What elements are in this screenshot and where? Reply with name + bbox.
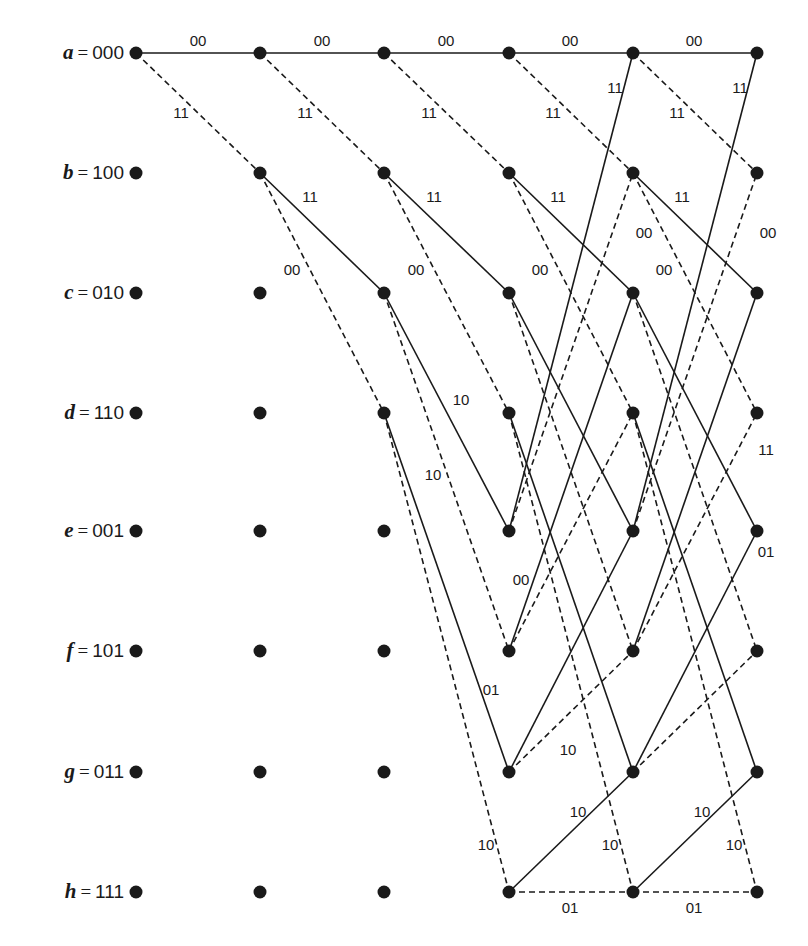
transition-f-d-dashed bbox=[633, 413, 757, 651]
equals-sign: = bbox=[78, 42, 89, 63]
state-var: e bbox=[64, 518, 73, 542]
state-node-e-t5 bbox=[751, 525, 764, 538]
state-node-b-t0 bbox=[130, 167, 143, 180]
state-node-h-t4 bbox=[627, 886, 640, 899]
state-node-d-t2 bbox=[378, 407, 391, 420]
state-node-a-t3 bbox=[503, 47, 516, 60]
state-node-g-t4 bbox=[627, 766, 640, 779]
state-label-f: f=101 bbox=[0, 640, 124, 661]
edge-output-labels: 0000000000111111111111111111111100000000… bbox=[173, 32, 776, 916]
state-node-a-t0 bbox=[130, 47, 143, 60]
transition-f-d-dashed bbox=[509, 413, 633, 651]
edge-output-label: 00 bbox=[438, 32, 455, 49]
edge-output-label: 10 bbox=[570, 803, 587, 820]
state-node-g-t5 bbox=[751, 766, 764, 779]
transition-b-d-dashed bbox=[260, 173, 384, 413]
state-var: d bbox=[64, 400, 75, 424]
state-label-b: b=100 bbox=[0, 162, 124, 183]
state-bits: 010 bbox=[92, 282, 124, 303]
state-node-c-t5 bbox=[751, 287, 764, 300]
equals-sign: = bbox=[78, 282, 89, 303]
state-node-f-t3 bbox=[503, 645, 516, 658]
state-node-b-t2 bbox=[378, 167, 391, 180]
state-label-a: a=000 bbox=[0, 42, 124, 63]
edge-output-label: 11 bbox=[426, 188, 442, 205]
state-bits: 011 bbox=[94, 761, 124, 782]
trellis-edges bbox=[136, 53, 757, 892]
edge-output-label: 01 bbox=[483, 681, 500, 698]
state-node-a-t2 bbox=[378, 47, 391, 60]
state-node-c-t3 bbox=[503, 287, 516, 300]
state-bits: 001 bbox=[92, 520, 124, 541]
edge-output-label: 10 bbox=[425, 466, 442, 483]
edge-output-label: 01 bbox=[758, 543, 775, 560]
transition-h-g-solid bbox=[509, 772, 633, 892]
state-node-b-t1 bbox=[254, 167, 267, 180]
transition-g-e-solid bbox=[509, 531, 633, 772]
edge-output-label: 00 bbox=[760, 224, 777, 241]
edge-output-label: 00 bbox=[190, 32, 207, 49]
state-node-g-t2 bbox=[378, 766, 391, 779]
state-node-a-t1 bbox=[254, 47, 267, 60]
edge-output-label: 11 bbox=[545, 104, 561, 121]
state-node-f-t0 bbox=[130, 645, 143, 658]
state-var: g bbox=[64, 759, 75, 783]
edge-output-label: 00 bbox=[513, 571, 530, 588]
state-label-c: c=010 bbox=[0, 282, 124, 303]
transition-b-c-solid bbox=[260, 173, 384, 293]
state-label-h: h=111 bbox=[0, 881, 124, 902]
transition-b-c-solid bbox=[509, 173, 633, 293]
edge-output-label: 11 bbox=[173, 104, 189, 121]
state-node-h-t1 bbox=[254, 886, 267, 899]
state-node-c-t2 bbox=[378, 287, 391, 300]
edge-output-label: 10 bbox=[478, 836, 495, 853]
edge-output-label: 11 bbox=[669, 104, 685, 121]
state-var: f bbox=[67, 638, 74, 662]
edge-output-label: 11 bbox=[550, 188, 566, 205]
state-node-e-t0 bbox=[130, 525, 143, 538]
edge-output-label: 10 bbox=[602, 836, 619, 853]
state-node-d-t4 bbox=[627, 407, 640, 420]
state-node-a-t5 bbox=[751, 47, 764, 60]
state-bits: 000 bbox=[92, 42, 124, 63]
equals-sign: = bbox=[78, 640, 89, 661]
transition-c-e-solid bbox=[384, 293, 509, 531]
state-node-c-t0 bbox=[130, 287, 143, 300]
trellis-diagram: 0000000000111111111111111111111100000000… bbox=[0, 0, 808, 946]
state-node-h-t0 bbox=[130, 886, 143, 899]
edge-output-label: 11 bbox=[758, 441, 774, 458]
state-node-c-t1 bbox=[254, 287, 267, 300]
edge-output-label: 00 bbox=[686, 32, 703, 49]
transition-c-f-dashed bbox=[384, 293, 509, 651]
state-label-e: e=001 bbox=[0, 520, 124, 541]
transition-a-b-dashed bbox=[633, 53, 757, 173]
state-bits: 110 bbox=[94, 402, 124, 423]
state-label-g: g=011 bbox=[0, 761, 124, 782]
transition-b-d-dashed bbox=[384, 173, 509, 413]
state-bits: 100 bbox=[92, 162, 124, 183]
transition-e-a-solid bbox=[633, 53, 757, 531]
state-node-d-t0 bbox=[130, 407, 143, 420]
edge-output-label: 00 bbox=[636, 224, 653, 241]
edge-output-label: 10 bbox=[560, 741, 577, 758]
state-node-b-t5 bbox=[751, 167, 764, 180]
state-bits: 111 bbox=[95, 881, 124, 902]
edge-output-label: 11 bbox=[674, 188, 690, 205]
equals-sign: = bbox=[78, 162, 89, 183]
transition-e-a-solid bbox=[509, 53, 633, 531]
state-node-g-t1 bbox=[254, 766, 267, 779]
state-bits: 101 bbox=[92, 640, 124, 661]
transition-d-g-solid bbox=[384, 413, 509, 772]
equals-sign: = bbox=[79, 402, 90, 423]
edge-output-label: 01 bbox=[562, 899, 579, 916]
state-node-c-t4 bbox=[627, 287, 640, 300]
state-node-g-t0 bbox=[130, 766, 143, 779]
transition-a-b-dashed bbox=[136, 53, 260, 173]
edge-output-label: 10 bbox=[453, 391, 470, 408]
transition-d-h-dashed bbox=[384, 413, 509, 892]
equals-sign: = bbox=[80, 881, 91, 902]
state-node-f-t1 bbox=[254, 645, 267, 658]
state-node-f-t2 bbox=[378, 645, 391, 658]
transition-a-b-dashed bbox=[509, 53, 633, 173]
state-node-d-t5 bbox=[751, 407, 764, 420]
